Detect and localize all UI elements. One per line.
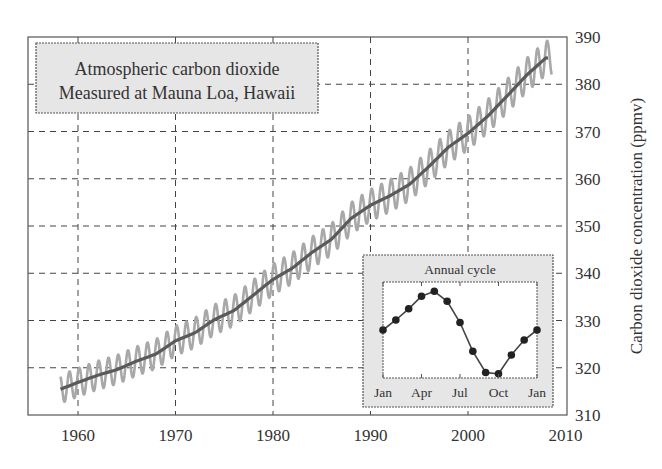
inset-x-tick-label: Jan [528,385,546,400]
x-axis-ticks: 196019701980199020002010 [61,426,583,445]
x-tick-label: 1960 [61,426,95,445]
inset-x-tick-label: Jan [374,385,392,400]
inset-data-point [418,292,426,300]
inset-x-tick-label: Oct [489,385,509,400]
y-tick-label: 390 [575,28,601,47]
inset-data-point [392,316,400,324]
y-tick-label: 330 [575,312,601,331]
y-tick-label: 320 [575,359,601,378]
x-tick-label: 1970 [159,426,193,445]
inset-data-point [405,305,413,313]
inset-data-point [469,347,477,355]
inset-data-point [520,336,528,344]
x-tick-label: 1980 [256,426,290,445]
inset-data-point [379,326,387,334]
x-tick-label: 2010 [549,426,583,445]
inset-x-tick-label: Jul [452,385,468,400]
y-tick-label: 380 [575,75,601,94]
y-tick-label: 360 [575,170,601,189]
annual-cycle-inset: Annual cycle JanAprJulOctJan [363,255,553,407]
y-axis-ticks: 310320330340350360370380390 [575,28,601,425]
inset-data-point [533,326,541,334]
y-axis-label: Carbon dioxide concentration (ppmv) [627,98,646,354]
inset-data-point [508,351,516,359]
y-tick-label: 350 [575,217,601,236]
co2-chart: Atmospheric carbon dioxide Measured at M… [0,0,662,469]
inset-title: Annual cycle [424,262,496,277]
chart-title: Atmospheric carbon dioxide [75,59,280,79]
inset-x-tick-label: Apr [411,385,432,400]
inset-data-point [482,369,490,377]
chart-subtitle: Measured at Mauna Loa, Hawaii [59,83,295,103]
y-tick-label: 340 [575,264,601,283]
x-tick-label: 1990 [354,426,388,445]
y-tick-label: 310 [575,406,601,425]
x-tick-label: 2000 [451,426,485,445]
inset-data-point [431,287,439,295]
inset-data-point [443,297,451,305]
y-tick-label: 370 [575,123,601,142]
title-box: Atmospheric carbon dioxide Measured at M… [36,43,318,113]
inset-data-point [456,319,464,327]
